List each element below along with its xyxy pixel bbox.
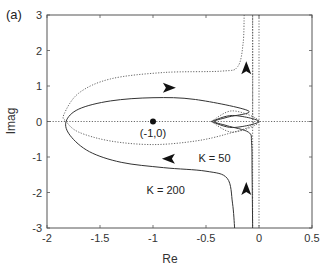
x-tick-label: 0.5	[304, 232, 319, 244]
x-tick-label: -1	[148, 232, 158, 244]
critical-point-label: (-1,0)	[140, 127, 166, 139]
y-tick-label: 3	[36, 9, 42, 21]
arrow-up-icon	[241, 182, 251, 195]
y-tick-label: 2	[36, 45, 42, 57]
panel-label: (a)	[6, 7, 22, 22]
gain-annotations: K = 50K = 200	[147, 152, 231, 196]
y-tick-label: 1	[36, 80, 42, 92]
critical-point-marker	[150, 119, 156, 125]
nyquist-plot: (a) -2-1.5-1-0.500.5-3-2-10123 (-1,0) K …	[0, 0, 335, 269]
axis-ticks: -2-1.5-1-0.500.5-3-2-10123	[32, 9, 319, 244]
arrow-right-icon	[163, 83, 176, 93]
y-tick-label: -2	[32, 187, 42, 199]
x-tick-label: -1.5	[91, 232, 110, 244]
x-axis-label: Re	[162, 252, 178, 266]
y-tick-label: -1	[32, 151, 42, 163]
x-tick-label: -2	[42, 232, 52, 244]
x-tick-label: 0	[256, 232, 262, 244]
x-tick-label: -0.5	[197, 232, 216, 244]
y-tick-label: -3	[32, 222, 42, 234]
y-tick-label: 0	[36, 116, 42, 128]
y-axis-label: Imag	[4, 108, 18, 135]
arrow-up-icon	[241, 61, 251, 74]
arrow-left-icon	[162, 154, 175, 164]
gain-label: K = 200	[147, 184, 185, 196]
gain-label: K = 50	[198, 152, 230, 164]
